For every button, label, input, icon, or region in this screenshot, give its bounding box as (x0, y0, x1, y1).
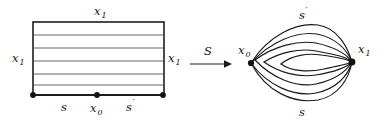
foliated-square: x 1 x 1 x 1 s x 0 s ′ (12, 4, 181, 117)
graph-edge-innermost-upper (281, 54, 352, 64)
map-arrow: S (190, 44, 232, 68)
bottom-mid-vertex (94, 92, 100, 98)
square-bottom-right-segment-label-base: s (126, 100, 132, 114)
graph-x0-label-base: x (238, 43, 245, 57)
foliation-leaves (33, 35, 164, 85)
graph-top-edge-label-base: s (299, 8, 305, 22)
bouquet-graph: x 0 x 1 s ′ s (238, 6, 371, 119)
square-top-label: x 1 (94, 4, 107, 20)
bottom-right-vertex (160, 92, 166, 98)
square-bottom-right-segment-label: s ′ (126, 98, 135, 114)
graph-edge-upper-inner (264, 50, 352, 62)
prime-mark-icon: ′ (133, 98, 135, 108)
square-top-label-base: x (94, 4, 101, 18)
graph-top-edge-label: s ′ (299, 6, 308, 22)
graph-edge-lower-inner (264, 62, 352, 76)
figure-root: x 1 x 1 x 1 s x 0 s ′ (0, 0, 382, 122)
graph-x1-label: x 1 (358, 42, 371, 58)
graph-x0-label: x 0 (238, 43, 251, 59)
graph-x1-label-base: x (358, 42, 365, 56)
graph-edge-upper-second (251, 34, 352, 63)
square-outline (33, 22, 164, 95)
square-right-label: x 1 (168, 51, 181, 67)
graph-edge-lower-outer (251, 62, 352, 101)
map-arrow-label: S (204, 44, 212, 58)
square-bottom-mid-label: x 0 (90, 101, 103, 117)
square-right-label-subscript: 1 (176, 58, 181, 67)
square-left-label-base: x (12, 51, 19, 65)
prime-mark-icon: ′ (306, 6, 308, 16)
x0-vertex (248, 60, 254, 66)
square-left-label-subscript: 1 (20, 58, 25, 67)
graph-edge-innermost-lower (281, 62, 352, 71)
bottom-left-vertex (30, 92, 36, 98)
graph-bottom-edge-label: s (299, 105, 305, 119)
square-bottom-left-segment-label: s (61, 100, 67, 114)
square-right-label-base: x (168, 51, 175, 65)
graph-x0-label-subscript: 0 (246, 50, 251, 59)
x1-vertex (349, 59, 356, 66)
square-bottom-mid-label-base: x (90, 101, 97, 115)
arrow-head-icon (224, 60, 232, 68)
square-left-label: x 1 (12, 51, 25, 67)
square-top-label-subscript: 1 (102, 11, 107, 20)
square-bottom-mid-label-subscript: 0 (98, 108, 103, 117)
figure-canvas: x 1 x 1 x 1 s x 0 s ′ (0, 0, 382, 122)
graph-x1-label-subscript: 1 (366, 49, 371, 58)
